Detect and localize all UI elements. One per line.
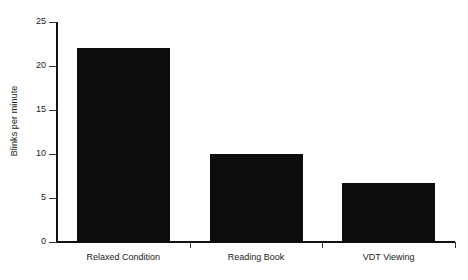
y-axis-tick-label: 25 — [26, 17, 46, 26]
y-axis-tick — [49, 66, 57, 67]
bar — [342, 183, 435, 242]
y-axis-tick-label: 0 — [26, 237, 46, 246]
y-axis-title-label: Blinks per minute — [9, 86, 19, 157]
y-axis-tick — [49, 242, 57, 243]
x-axis-category-label: Relaxed Condition — [57, 252, 190, 262]
bar-chart: Blinks per minute 0510152025 Relaxed Con… — [0, 0, 468, 280]
y-axis-tick-label: 5 — [26, 193, 46, 202]
y-axis-tick-label: 20 — [26, 61, 46, 70]
y-axis-tick — [49, 154, 57, 155]
y-axis-tick — [49, 198, 57, 199]
x-axis-category-label: VDT Viewing — [322, 252, 455, 262]
bar — [77, 48, 170, 242]
y-axis-tick-label: 10 — [26, 149, 46, 158]
y-axis-tick-label: 15 — [26, 105, 46, 114]
y-axis-title: Blinks per minute — [2, 0, 26, 242]
x-axis-tick — [190, 242, 191, 248]
x-axis-category-label: Reading Book — [190, 252, 323, 262]
x-axis-tick — [455, 242, 456, 248]
bar — [210, 154, 303, 242]
x-axis-tick — [322, 242, 323, 248]
y-axis-line — [56, 22, 58, 243]
y-axis-tick — [49, 22, 57, 23]
y-axis-tick — [49, 110, 57, 111]
